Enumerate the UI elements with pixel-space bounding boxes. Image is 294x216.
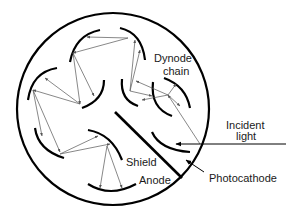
label-shield: Shield [126,156,157,168]
label-dynode-chain-2: chain [163,65,189,77]
photocathode [115,112,182,178]
label-dynode-chain-1: Dynode [154,52,192,64]
pmt-diagram: Dynode chain Incident light Shield Anode… [0,0,294,216]
label-anode: Anode [139,174,171,186]
label-incident-light-2: light [236,130,256,142]
photocathode-pointer [186,160,204,172]
label-photocathode: Photocathode [209,172,277,184]
